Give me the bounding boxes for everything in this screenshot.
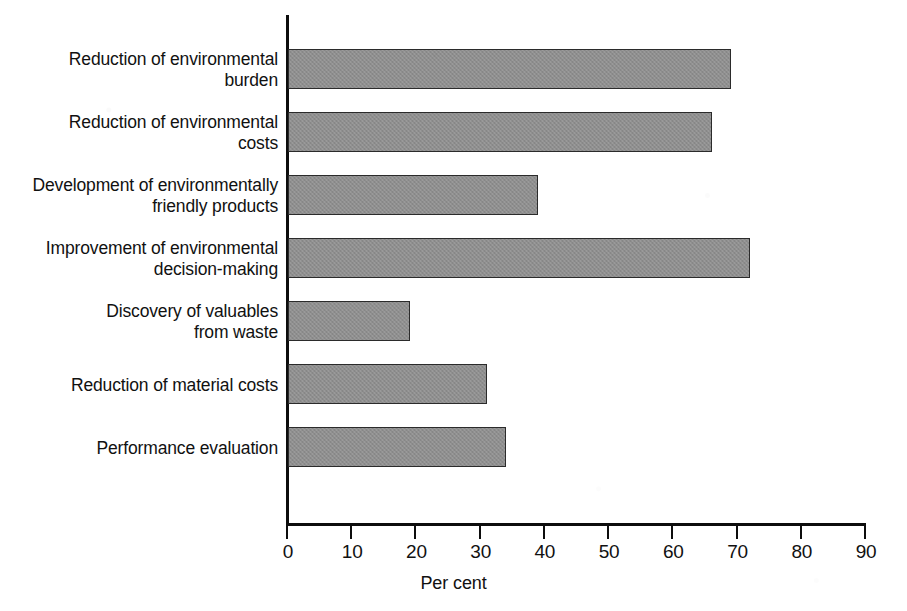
bar bbox=[288, 301, 410, 341]
category-label: Development of environmentally friendly … bbox=[8, 175, 278, 217]
x-axis-tick-label: 70 bbox=[727, 541, 748, 563]
x-axis-tick bbox=[800, 525, 802, 539]
x-axis-tick bbox=[864, 525, 866, 539]
category-label: Reduction of environmental burden bbox=[18, 49, 278, 91]
horizontal-bar-chart: Reduction of environmental burden Reduct… bbox=[0, 0, 907, 611]
category-label: Reduction of environmental costs bbox=[18, 112, 278, 154]
x-axis-tick bbox=[543, 525, 545, 539]
x-axis-tick-label: 0 bbox=[283, 541, 293, 563]
category-label-text: Reduction of material costs bbox=[71, 375, 278, 396]
x-axis-tick-label: 20 bbox=[406, 541, 427, 563]
x-axis-tick-label: 50 bbox=[599, 541, 620, 563]
x-axis-tick bbox=[671, 525, 673, 539]
category-label-text: Improvement of environmental decision-ma… bbox=[46, 238, 278, 280]
category-label-text: Performance evaluation bbox=[96, 438, 278, 459]
x-axis-tick-label: 80 bbox=[791, 541, 812, 563]
category-label-text: Development of environmentally friendly … bbox=[33, 175, 279, 217]
x-axis-tick-label: 10 bbox=[342, 541, 363, 563]
category-label: Reduction of material costs bbox=[18, 364, 278, 406]
x-axis-tick bbox=[479, 525, 481, 539]
x-axis-tick bbox=[350, 525, 352, 539]
category-label-text: Reduction of environmental costs bbox=[69, 112, 278, 154]
x-axis-tick-label: 60 bbox=[663, 541, 684, 563]
bar bbox=[288, 49, 731, 89]
x-axis-line bbox=[286, 523, 866, 526]
bar bbox=[288, 112, 712, 152]
x-axis-tick bbox=[736, 525, 738, 539]
x-axis-title: Per cent bbox=[0, 573, 907, 594]
category-label: Improvement of environmental decision-ma… bbox=[12, 238, 278, 280]
bar bbox=[288, 427, 506, 467]
bar bbox=[288, 238, 750, 278]
x-axis-tick bbox=[607, 525, 609, 539]
x-axis-tick bbox=[414, 525, 416, 539]
x-axis-tick-label: 40 bbox=[535, 541, 556, 563]
x-axis-tick bbox=[286, 525, 288, 539]
x-axis-tick-label: 30 bbox=[470, 541, 491, 563]
category-label: Performance evaluation bbox=[18, 427, 278, 469]
category-label: Discovery of valuables from waste bbox=[18, 301, 278, 343]
bar bbox=[288, 175, 538, 215]
bar bbox=[288, 364, 487, 404]
x-axis-tick-label: 90 bbox=[856, 541, 877, 563]
category-label-text: Reduction of environmental burden bbox=[69, 49, 278, 91]
category-label-text: Discovery of valuables from waste bbox=[106, 301, 278, 343]
